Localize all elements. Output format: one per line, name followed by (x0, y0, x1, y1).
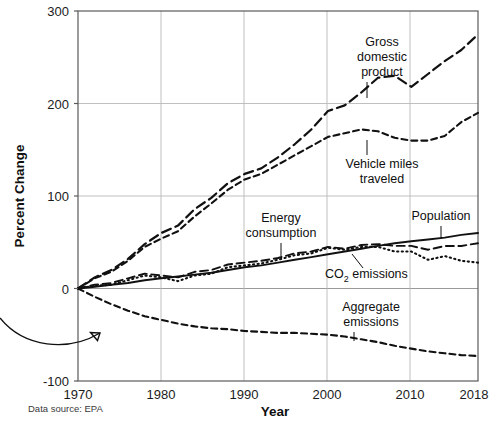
x-axis: 1970 1980 1990 2000 2010 2018 Year (64, 387, 489, 419)
gdp-label-line1: Gross (365, 35, 398, 49)
co2-label-tail: emissions (349, 267, 408, 281)
xtick-label-2000: 2000 (313, 387, 342, 402)
y-axis-title: Percent Change (12, 144, 27, 247)
gdp-label-line3: product (361, 65, 403, 79)
epa-percent-change-line-chart: 300 200 100 0 -100 Percent Change 1970 1… (0, 0, 492, 422)
energy-label-line2: consumption (246, 226, 317, 240)
gdp-label-line2: domestic (357, 50, 407, 64)
ytick-label-0: 0 (62, 282, 69, 297)
xtick-label-1980: 1980 (147, 387, 176, 402)
vmt-label-line1: Vehicle miles (346, 157, 419, 171)
aggregate-label-line2: emissions (343, 315, 399, 329)
ytick-label-300: 300 (47, 4, 69, 19)
co2-label-main: CO (325, 267, 344, 281)
x-axis-title: Year (261, 404, 290, 419)
aggregate-label-line1: Aggregate (342, 300, 400, 314)
chart-figure: 300 200 100 0 -100 Percent Change 1970 1… (0, 0, 492, 422)
source-note: Data source: EPA (28, 403, 103, 414)
xtick-label-1990: 1990 (230, 387, 259, 402)
xtick-label-1970: 1970 (64, 387, 93, 402)
energy-label-line1: Energy (261, 211, 301, 225)
xtick-label-2010: 2010 (396, 387, 425, 402)
ytick-label-100: 100 (47, 189, 69, 204)
xtick-label-2018: 2018 (460, 387, 489, 402)
y-axis: 300 200 100 0 -100 Percent Change (12, 4, 78, 389)
population-label: Population (411, 209, 470, 223)
ytick-label-200: 200 (47, 97, 69, 112)
vmt-label-line2: traveled (360, 172, 405, 186)
